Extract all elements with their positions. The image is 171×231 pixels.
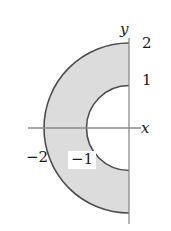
y-tick-label-2: 2 <box>142 36 152 51</box>
y-axis-label: y <box>120 22 128 37</box>
x-tick-label-negative-1: −1 <box>68 151 96 169</box>
polar-region-figure: y x 2 1 −2 −1 <box>0 0 171 231</box>
x-axis-label: x <box>141 121 149 136</box>
x-tick-label-negative-2: −2 <box>26 150 48 165</box>
y-tick-label-1: 1 <box>142 73 152 88</box>
